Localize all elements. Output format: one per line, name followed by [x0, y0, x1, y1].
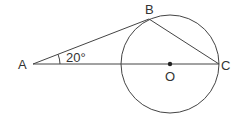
center-point-o [168, 62, 172, 66]
segment-ab [33, 19, 149, 64]
label-c: C [221, 58, 230, 73]
segment-bc [149, 19, 219, 64]
label-b: B [145, 2, 154, 17]
label-o: O [165, 69, 175, 84]
geometry-diagram: A B C O 20° [0, 0, 243, 119]
angle-arc-a [58, 54, 60, 64]
label-a: A [18, 57, 27, 72]
angle-label: 20° [66, 50, 86, 65]
